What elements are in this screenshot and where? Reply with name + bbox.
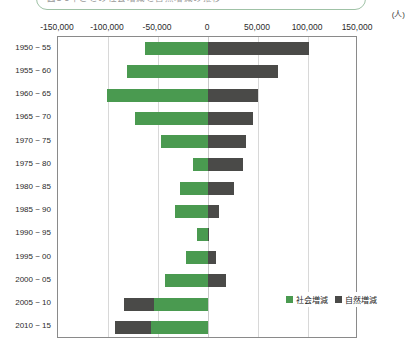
bar-segment-social [193,158,208,171]
bar-segment-social [154,298,208,311]
legend-swatch-icon [335,296,342,303]
legend-item-social: 社会増減 [286,294,328,305]
gridline [258,37,259,337]
x-tick-label: -50,000 [143,22,172,32]
bar-segment-social [180,182,208,195]
bar-segment-social [135,112,208,125]
bar-segment-natural [208,135,246,148]
y-axis-category-label: 1965 ~ 70 [0,112,51,121]
y-axis-category-label: 2010 ~ 15 [0,321,51,330]
bar-segment-natural [208,42,309,55]
gridline [108,37,109,337]
bar-segment-social [186,251,208,264]
x-axis-tick-labels: -150,000-100,000-50,000050,000100,000150… [0,22,413,35]
chart-page: 図1 5年ごとの社会増減と自然増減の推移 (人) -150,000-100,00… [0,0,413,349]
y-axis-category-label: 1990 ~ 95 [0,228,51,237]
chart-title-pill: 図1 5年ごとの社会増減と自然増減の推移 [36,0,366,10]
x-tick-label: -150,000 [40,22,74,32]
y-axis-category-label: 1980 ~ 85 [0,182,51,191]
y-axis-category-label: 1950 ~ 55 [0,43,51,52]
y-axis-category-label: 1985 ~ 90 [0,205,51,214]
y-axis-category-label: 1955 ~ 60 [0,66,51,75]
legend-item-natural: 自然増減 [335,294,377,305]
y-axis-category-label: 2005 ~ 10 [0,298,51,307]
y-axis-category-label: 1970 ~ 75 [0,136,51,145]
bar-segment-social [127,65,208,78]
bar-segment-natural [208,112,253,125]
y-axis-category-label: 2000 ~ 05 [0,275,51,284]
bar-segment-natural [208,182,234,195]
y-axis-category-label: 1960 ~ 65 [0,89,51,98]
x-tick-label: 0 [205,22,210,32]
bar-segment-natural [208,251,216,264]
bar-segment-social [175,205,208,218]
bar-segment-natural [124,298,154,311]
bar-segment-social [145,42,208,55]
bar-segment-natural [208,65,278,78]
page-title: 図1 5年ごとの社会増減と自然増減の推移 [47,0,222,3]
y-axis-category-label: 1995 ~ 00 [0,252,51,261]
axis-unit-label: (人) [392,8,405,19]
legend-label: 社会増減 [296,294,328,305]
bar-segment-social [197,228,208,241]
bar-segment-natural [115,321,151,334]
legend-label: 自然増減 [345,294,377,305]
bar-segment-natural [208,228,209,241]
chart-legend: 社会増減自然増減 [283,292,380,307]
x-tick-label: 150,000 [342,22,373,32]
x-tick-label: 50,000 [244,22,270,32]
bar-segment-natural [208,274,226,287]
gridline [158,37,159,337]
bar-segment-natural [208,205,219,218]
bar-segment-social [165,274,208,287]
x-tick-label: -100,000 [90,22,124,32]
y-axis-category-label: 1975 ~ 80 [0,159,51,168]
x-tick-label: 100,000 [292,22,323,32]
bar-segment-social [151,321,208,334]
legend-swatch-icon [286,296,293,303]
bar-segment-social [107,89,208,102]
bar-segment-natural [208,89,258,102]
bar-segment-social [161,135,208,148]
bar-segment-natural [208,158,243,171]
